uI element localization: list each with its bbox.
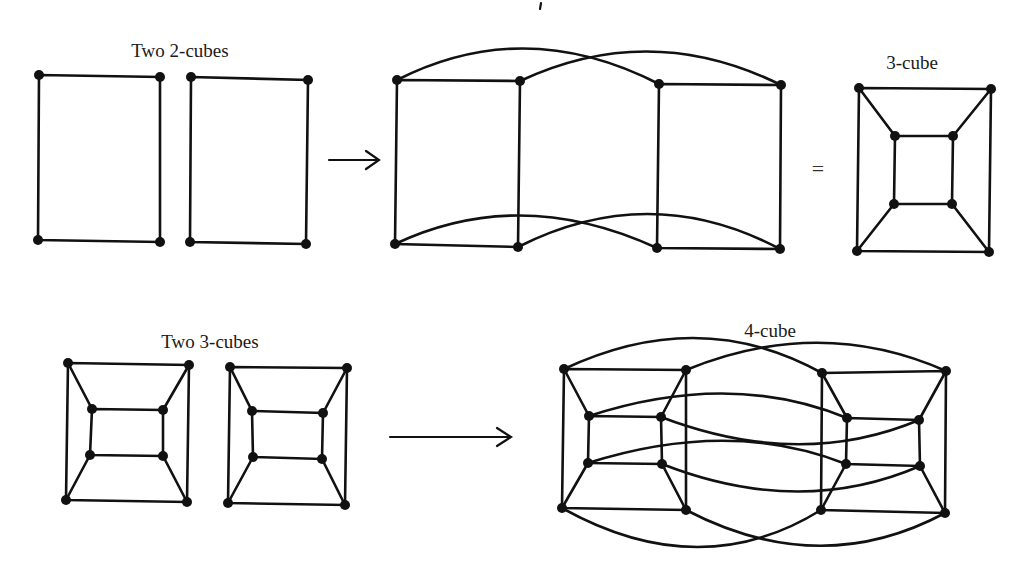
hypercube-construction-diagram: Two 2-cubes = 3-cube: [0, 0, 1020, 566]
label-4-cube: 4-cube: [744, 320, 796, 341]
label-two-3-cubes: Two 3-cubes: [161, 331, 258, 352]
equals-sign: =: [812, 156, 824, 181]
four-cube-graph: [557, 338, 951, 547]
arrow-right-icon: [329, 151, 379, 169]
square-left: [33, 70, 165, 247]
joined-2-cubes: [390, 48, 786, 254]
label-3-cube: 3-cube: [886, 52, 938, 73]
three-cube-right: [223, 362, 352, 510]
arrow-right-icon: [390, 428, 511, 446]
label-two-2-cubes: Two 2-cubes: [131, 40, 228, 61]
three-cube-graph: [852, 83, 996, 257]
page-mark: [540, 3, 541, 9]
three-cube-left: [61, 358, 194, 507]
square-right: [185, 72, 313, 249]
